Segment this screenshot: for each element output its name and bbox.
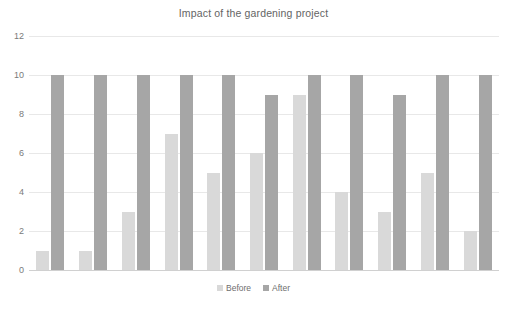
bar-group bbox=[157, 36, 200, 270]
bar-group bbox=[456, 36, 499, 270]
bar-group bbox=[200, 36, 243, 270]
bar-before-6 bbox=[250, 153, 263, 270]
bar-before-2 bbox=[79, 251, 92, 271]
y-axis: 024681012 bbox=[0, 36, 24, 270]
bar-before-11 bbox=[464, 231, 477, 270]
y-axis-tick-label: 6 bbox=[2, 149, 24, 158]
bar-after-6 bbox=[265, 95, 278, 271]
bar-before-1 bbox=[36, 251, 49, 271]
y-axis-tick-label: 0 bbox=[2, 266, 24, 275]
bar-before-8 bbox=[335, 192, 348, 270]
plot-area bbox=[29, 36, 499, 270]
chart-title: Impact of the gardening project bbox=[0, 7, 507, 19]
bar-after-5 bbox=[222, 75, 235, 270]
bar-after-9 bbox=[393, 95, 406, 271]
legend-label: After bbox=[272, 283, 290, 293]
y-axis-tick-label: 10 bbox=[2, 71, 24, 80]
bar-group bbox=[285, 36, 328, 270]
bar-before-3 bbox=[122, 212, 135, 271]
bar-chart: Impact of the gardening project 02468101… bbox=[0, 0, 507, 311]
bar-after-3 bbox=[137, 75, 150, 270]
bar-after-7 bbox=[308, 75, 321, 270]
bar-before-5 bbox=[207, 173, 220, 271]
bar-group bbox=[114, 36, 157, 270]
bar-group bbox=[414, 36, 457, 270]
y-axis-tick-label: 12 bbox=[2, 32, 24, 41]
legend-swatch-icon bbox=[217, 285, 223, 291]
bar-group bbox=[243, 36, 286, 270]
bar-group bbox=[371, 36, 414, 270]
legend-label: Before bbox=[226, 283, 251, 293]
bar-after-4 bbox=[180, 75, 193, 270]
y-axis-tick-label: 8 bbox=[2, 110, 24, 119]
legend-item-before[interactable]: Before bbox=[217, 283, 251, 293]
bar-before-10 bbox=[421, 173, 434, 271]
bar-before-4 bbox=[165, 134, 178, 271]
bar-before-7 bbox=[293, 95, 306, 271]
bar-after-2 bbox=[94, 75, 107, 270]
bar-group bbox=[328, 36, 371, 270]
y-axis-tick-label: 4 bbox=[2, 188, 24, 197]
bar-before-9 bbox=[378, 212, 391, 271]
bar-after-10 bbox=[436, 75, 449, 270]
legend-item-after[interactable]: After bbox=[263, 283, 290, 293]
bar-group bbox=[29, 36, 72, 270]
bar-after-1 bbox=[51, 75, 64, 270]
legend-swatch-icon bbox=[263, 285, 269, 291]
bar-after-11 bbox=[479, 75, 492, 270]
chart-legend: BeforeAfter bbox=[0, 283, 507, 293]
y-axis-tick-label: 2 bbox=[2, 227, 24, 236]
bar-after-8 bbox=[350, 75, 363, 270]
bar-group bbox=[72, 36, 115, 270]
x-axis-line bbox=[29, 270, 499, 271]
